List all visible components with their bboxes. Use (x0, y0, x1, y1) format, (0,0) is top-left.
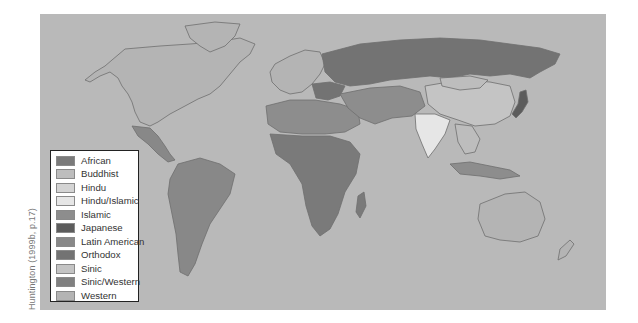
legend-label: Japanese (81, 223, 123, 233)
legend-swatch (56, 250, 75, 260)
legend-label: Western (81, 291, 117, 301)
legend-swatch (56, 237, 75, 247)
legend-item-hindu: Hindu (56, 181, 138, 195)
legend-item-islamic: Islamic (56, 208, 138, 222)
legend-swatch (56, 223, 75, 233)
region-southeast-asia (455, 124, 480, 154)
legend-item-sinic-western: Sinic/Western (56, 276, 138, 290)
legend-label: Sinic (81, 264, 102, 274)
source-caption: Huntington (1999b, p.17) (27, 208, 37, 310)
legend-swatch (56, 264, 75, 274)
legend-label: African (81, 156, 111, 166)
region-north-america (85, 38, 255, 126)
legend-swatch (56, 156, 75, 166)
legend-item-hindu-islamic: Hindu/Islamic (56, 195, 138, 209)
legend-swatch (56, 169, 75, 179)
legend-swatch (56, 196, 75, 206)
legend-swatch (56, 183, 75, 193)
legend-item-orthodox: Orthodox (56, 249, 138, 263)
legend-label: Islamic (81, 210, 111, 220)
map-legend: African Buddhist Hindu Hindu/Islamic Isl… (50, 150, 139, 302)
legend-swatch (56, 291, 75, 301)
legend-label: Hindu/Islamic (81, 196, 139, 206)
region-eastern-europe (312, 82, 345, 100)
legend-item-latin-american: Latin American (56, 235, 138, 249)
legend-item-sinic: Sinic (56, 262, 138, 276)
legend-item-japanese: Japanese (56, 222, 138, 236)
region-new-zealand (558, 240, 574, 260)
legend-swatch (56, 277, 75, 287)
legend-swatch (56, 210, 75, 220)
legend-label: Latin American (81, 237, 144, 247)
legend-item-buddhist: Buddhist (56, 168, 138, 182)
region-india (415, 114, 450, 158)
region-indonesia (450, 162, 520, 179)
region-south-america (168, 158, 235, 276)
legend-label: Sinic/Western (81, 277, 140, 287)
region-madagascar (356, 192, 366, 218)
legend-label: Hindu (81, 183, 106, 193)
legend-item-western: Western (56, 289, 138, 303)
legend-label: Orthodox (81, 250, 120, 260)
region-sub-saharan-africa (270, 134, 360, 236)
legend-label: Buddhist (81, 169, 118, 179)
region-australia (478, 192, 545, 242)
legend-item-african: African (56, 154, 138, 168)
